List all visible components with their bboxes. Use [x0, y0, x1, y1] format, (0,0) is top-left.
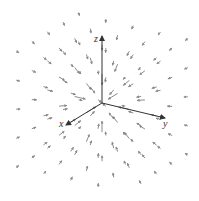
vector-arrow [140, 71, 145, 75]
vector-arrow [184, 68, 187, 69]
x-axis [66, 103, 102, 125]
vector-arrow [157, 61, 161, 64]
vector-arrow [86, 54, 88, 59]
vector-arrow [168, 77, 172, 79]
vector-arrow [44, 171, 46, 174]
vector-arrow [137, 123, 141, 125]
vector-arrow [109, 90, 113, 95]
vector-arrow [127, 163, 129, 168]
vector-arrow [59, 48, 62, 52]
vector-arrow [90, 29, 91, 33]
vector-arrow [169, 162, 172, 164]
vector-arrow [63, 109, 67, 110]
vector-arrow [113, 173, 114, 177]
vector-arrow [139, 181, 141, 184]
vector-arrow [109, 113, 114, 119]
vector-arrow [139, 126, 144, 129]
vector-arrow [129, 111, 134, 112]
vector-arrow [184, 125, 188, 126]
vector-arrow [153, 142, 157, 145]
vector-arrow [154, 171, 156, 174]
vector-arrow [71, 64, 73, 67]
vector-arrow [47, 118, 52, 119]
vector-arrow [131, 139, 133, 142]
vector-arrow [138, 67, 141, 69]
vector-arrow [113, 116, 118, 122]
vector-arrow [90, 111, 94, 116]
vector-arrow [32, 41, 35, 43]
vector-arrow [112, 61, 113, 65]
y-axis-label: y [162, 118, 168, 129]
vector-arrow [47, 90, 52, 91]
vector-arrow [16, 166, 19, 168]
vector-arrow [131, 55, 134, 59]
vector-arrow [154, 58, 157, 60]
vector-arrow [86, 166, 87, 171]
vector-arrow [152, 87, 157, 88]
vector-arrow [47, 32, 49, 35]
vector-arrow [63, 80, 67, 82]
vector-arrow [16, 51, 19, 53]
vector-arrow [71, 93, 76, 94]
vector-arrow [125, 132, 130, 138]
vector-arrow [79, 127, 81, 129]
vector-arrow [59, 106, 67, 107]
vector-arrow [75, 38, 77, 43]
vector-arrow [44, 115, 49, 116]
vector-arrow [158, 32, 160, 35]
vector-arrow [47, 61, 51, 64]
vector-arrow [90, 141, 91, 145]
vector-arrow [16, 80, 20, 81]
vector-arrow [86, 84, 91, 90]
vector-arrow [79, 42, 80, 45]
vector-arrow [63, 22, 65, 25]
vector-arrow [168, 134, 172, 136]
vector-arrow [63, 51, 66, 55]
vector-arrow [90, 87, 95, 93]
vector-arrow [116, 35, 117, 40]
vector-arrow [59, 131, 64, 135]
vector-arrow [71, 147, 74, 151]
vector-arrow [156, 118, 160, 119]
vector-field-diagram: x y z [0, 0, 199, 201]
vector-arrow [123, 80, 129, 85]
vector-arrow [90, 58, 92, 64]
vector-arrow [71, 177, 72, 181]
vector-arrow [44, 58, 47, 60]
vector-arrow [158, 146, 161, 148]
vector-arrow [127, 51, 129, 55]
coordinate-axes: x y z [58, 33, 168, 129]
vector-arrow [185, 39, 188, 41]
vector-arrow [142, 42, 145, 46]
vector-arrow [47, 146, 50, 148]
vector-arrow [16, 137, 19, 138]
vector-arrow [142, 155, 145, 159]
vector-arrow [115, 64, 118, 71]
x-axis-label: x [58, 118, 64, 129]
vector-arrow [86, 135, 89, 142]
vector-arrow [169, 48, 172, 50]
vector-arrow [63, 136, 66, 138]
vector-arrow [44, 87, 48, 88]
vector-arrow [112, 142, 114, 148]
vector-arrow [116, 147, 118, 152]
vector-arrow [79, 13, 80, 16]
vector-arrow [98, 124, 99, 129]
vector-arrow [185, 153, 188, 155]
vector-arrow [105, 77, 106, 82]
vector-arrow [98, 100, 101, 103]
vector-arrow [75, 67, 80, 73]
vector-arrow [75, 150, 77, 154]
vector-arrow [59, 161, 62, 165]
vector-arrow [75, 97, 86, 100]
vector-arrow [44, 142, 48, 145]
vector-arrow [59, 77, 64, 80]
vector-arrow [32, 71, 36, 73]
vector-arrow [123, 77, 125, 79]
vector-arrow [138, 151, 141, 155]
vector-arrow [124, 161, 125, 164]
vector-arrow [32, 156, 35, 158]
vector-arrow [137, 100, 145, 101]
vector-arrow [156, 90, 161, 91]
z-axis-label: z [93, 33, 98, 44]
